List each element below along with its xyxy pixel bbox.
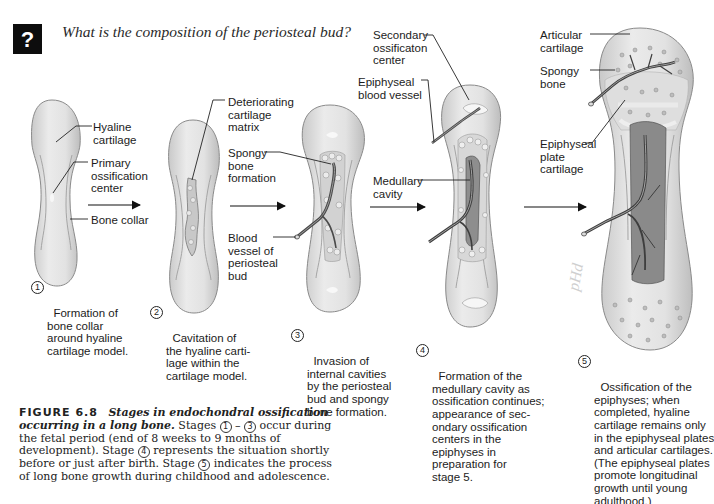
stage-3-caption: 3 Invasion of internal cavities by the p… (307, 330, 391, 418)
label-spongy-bone-formation: Spongy bone formation (228, 147, 276, 185)
stage-5-caption: 5 Ossification of the epiphyses; when co… (594, 356, 714, 504)
stage-4-caption: 4 Formation of the medullary cavity as o… (432, 345, 545, 484)
figure-caption: FIGURE 6.8 Stages in endochondral ossifi… (19, 407, 339, 484)
figure-dash: – (232, 419, 245, 432)
figure-text-1: Stages (175, 419, 220, 432)
stage-1-number: 1 (31, 281, 44, 294)
label-blood-vessel-periosteal-bud: Blood vessel of periosteal bud (228, 232, 278, 282)
stage-4-bone (418, 35, 501, 327)
label-hyaline-cartilage: Hyaline cartilage (93, 121, 136, 146)
stage-5-caption-text: Ossification of the epiphyses; when comp… (594, 381, 714, 504)
label-epiphyseal-blood-vessel: Epiphyseal blood vessel (358, 76, 422, 101)
label-epiphyseal-plate-cartilage: Epiphyseal plate cartilage (540, 138, 596, 176)
stage-3-bone (264, 105, 364, 312)
label-articular-cartilage: Articular cartilage (540, 29, 583, 54)
stage-2-bone (169, 100, 225, 313)
stage-2-number: 2 (150, 306, 163, 319)
label-bone-collar: Bone collar (91, 214, 149, 227)
stage-4-caption-text: Formation of the medullary cavity as oss… (432, 370, 545, 483)
stage-1-caption: 1 Formation of bone collar around hyalin… (47, 282, 128, 358)
stage-5-bone (582, 28, 694, 350)
stage-2-caption: 2 Cavitation of the hyaline carti- lage … (166, 307, 250, 383)
label-deteriorating-cartilage-matrix: Deteriorating cartilage matrix (228, 96, 294, 134)
stage-4-number: 4 (416, 344, 429, 357)
label-medullary-cavity: Medullary cavity (373, 175, 423, 200)
stage-1-bone (32, 100, 92, 286)
label-spongy-bone: Spongy bone (540, 65, 579, 90)
stage-5-number: 5 (578, 355, 591, 368)
stage-2-caption-text: Cavitation of the hyaline carti- lage wi… (166, 332, 250, 382)
stage-3-number: 3 (291, 329, 304, 342)
figure-number: FIGURE 6.8 (19, 406, 98, 419)
stage-1-caption-text: Formation of bone collar around hyaline … (47, 307, 128, 357)
label-secondary-ossification-center: Secondary ossificaton center (373, 29, 428, 67)
label-primary-ossification-center: Primary ossification center (91, 157, 148, 195)
